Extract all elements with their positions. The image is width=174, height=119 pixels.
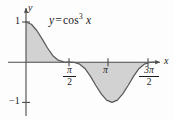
- three-pi-over-2-denominator: 2: [139, 78, 159, 88]
- pi-over-2-numerator: π: [63, 66, 76, 76]
- curve-equation-label: y=cos3 x: [49, 15, 91, 27]
- equation-argument: x: [86, 14, 91, 26]
- equation-function: cos: [63, 14, 79, 26]
- x-tick-label-pi-over-2: π 2: [63, 66, 76, 88]
- three-pi-over-2-numerator: 3π: [139, 66, 159, 76]
- equation-exponent: 3: [79, 12, 83, 21]
- pi-over-2-denominator: 2: [63, 78, 76, 88]
- y-axis-label: y: [28, 3, 32, 13]
- cos-cubed-graph-figure: y=cos3 x y x 1 −1 π 2 π 3π 2: [0, 0, 174, 119]
- y-tick-label-neg-1: −1: [9, 96, 20, 106]
- equation-equals: =: [54, 14, 63, 26]
- x-tick-label-3pi-over-2: 3π 2: [139, 66, 159, 88]
- x-tick-label-pi: π: [103, 66, 108, 76]
- x-axis-label: x: [164, 56, 168, 66]
- y-tick-label-1: 1: [15, 16, 20, 26]
- x-axis-arrowhead: [155, 60, 160, 64]
